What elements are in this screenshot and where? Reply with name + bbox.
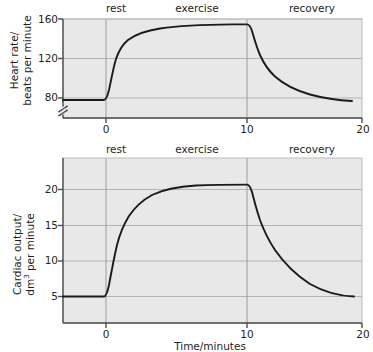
- plot-area-background-bottom: [63, 158, 362, 323]
- plot-area-background-top: [63, 19, 362, 118]
- chart-cardiac-output: rest exercise recovery Cardiac output/ d…: [0, 140, 373, 348]
- cardiac-output-plot-svg: [0, 140, 373, 348]
- chart-heart-rate: rest exercise recovery Heart rate/ beats…: [0, 0, 373, 152]
- heart-rate-plot-svg: [0, 0, 373, 152]
